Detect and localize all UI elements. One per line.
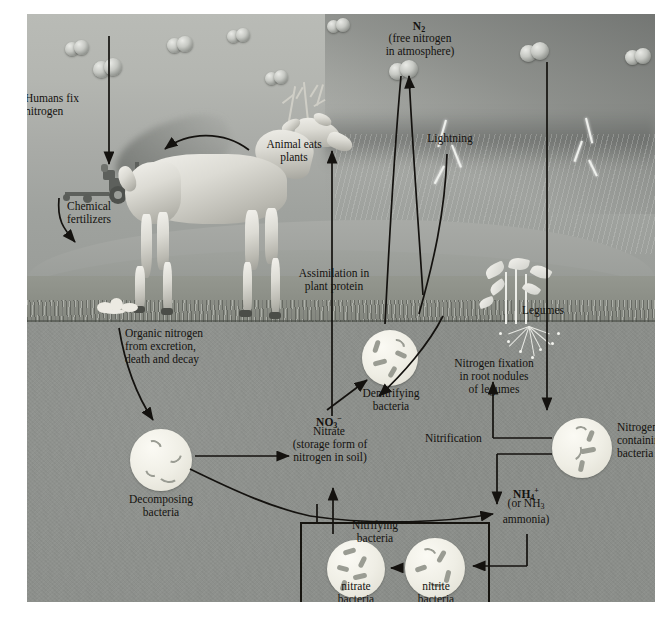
label-decomposing-bacteria: Decomposing bacteria: [113, 493, 209, 519]
label-organic-nitrogen: Organic nitrogen from excretion, death a…: [125, 327, 251, 366]
n2-molecule-icon: [389, 60, 423, 79]
n2-molecule-icon: [520, 42, 554, 61]
animal-bones-icon: [95, 296, 141, 316]
label-nitrate-caption: (storage form of nitrogen in soil): [267, 438, 393, 464]
denitrifying-bacteria-circle: [362, 330, 418, 386]
label-ammonium-caption: (or NH3ammonia): [482, 497, 570, 526]
n2-molecule-icon: [65, 40, 95, 56]
label-animal-eats-plants: Animal eats plants: [251, 138, 337, 164]
n2-molecule-icon: [327, 18, 353, 33]
label-nitrate-name: Nitrate: [289, 425, 369, 438]
label-nitrification: Nitrification: [425, 432, 497, 445]
nitrogen-cycle-figure: Humans fix nitrogen Chemical fertilizers…: [27, 14, 655, 602]
label-nitrifying-bacteria: Nitrifying bacteria: [332, 519, 418, 545]
label-nitrogen-fixation: Nitrogen fixation in root nodules of leg…: [425, 357, 563, 396]
label-denitrifying-bacteria: Denitrifying bacteria: [345, 387, 437, 413]
decomposing-bacteria-circle: [130, 429, 192, 491]
n2-molecule-icon: [227, 28, 253, 43]
n2-molecule-icon: [625, 48, 655, 65]
n2-molecule-icon: [167, 36, 197, 53]
label-lightning: Lightning: [419, 132, 481, 145]
label-legumes: Legumes: [513, 304, 573, 317]
label-humans-fix-nitrogen: Humans fix nitrogen: [27, 92, 117, 118]
label-nitrogenase-bacteria: Nitrogenase- containing bacteria: [617, 421, 655, 460]
n2-molecule-icon: [93, 58, 127, 77]
label-nitrate-bacteria: nitrate bacteria: [315, 580, 397, 602]
label-chemical-fertilizers: Chemical fertilizers: [67, 200, 153, 226]
nitrogenase-bacteria-circle: [552, 418, 612, 478]
label-nitrite-bacteria: nitrite bacteria: [395, 580, 477, 602]
label-n2-caption: (free nitrogen in atmosphere): [365, 32, 475, 58]
label-assimilation: Assimilation in plant protein: [285, 267, 383, 293]
